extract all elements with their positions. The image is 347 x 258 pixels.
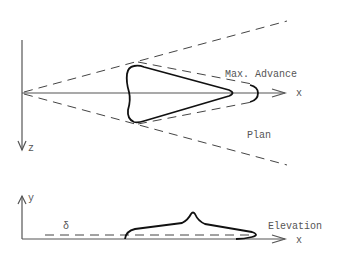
delta-label: δ	[63, 221, 69, 232]
elevation-view: y x δ Elevation	[18, 193, 322, 246]
elevation-label: Elevation	[268, 221, 322, 232]
z-axis-label: z	[28, 143, 34, 154]
plume-outline-plan	[127, 66, 233, 123]
plan-view: z x Max. Advance Plan	[18, 21, 302, 165]
diagram: z x Max. Advance Plan y x δ Elevation	[0, 0, 347, 258]
outer-dashed-line-upper	[24, 21, 287, 92]
max-advance-label: Max. Advance	[225, 69, 297, 80]
plume-outline-elevation	[125, 213, 256, 240]
y-axis-label: y	[28, 193, 34, 204]
plan-label: Plan	[247, 130, 271, 141]
x-axis-label: x	[296, 88, 302, 99]
x-axis-elevation-label: x	[296, 235, 302, 246]
